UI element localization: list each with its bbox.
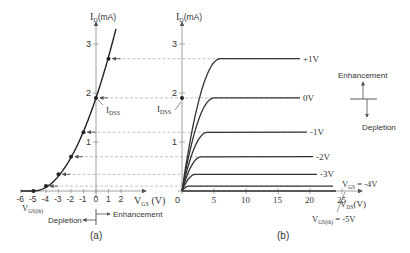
vgs-minus4-label: VGS = -4V [342, 179, 378, 190]
transfer-data-point [82, 130, 86, 134]
transfer-data-point [32, 189, 36, 193]
output-curve [182, 174, 317, 191]
left-x-label: VGS (V) [134, 195, 165, 207]
left-x-tick-label: -3 [54, 194, 62, 204]
left-x-tick-label: 0 [94, 194, 99, 204]
output-curve-label: +1V [303, 54, 320, 64]
right-x-label: VDS(V) [340, 199, 366, 210]
enhancement-label-right: Enhancement [338, 71, 388, 80]
vgs-th-label-right: VGS(th) = -5V [312, 214, 356, 226]
right-y-tick-label: 3 [172, 39, 177, 49]
output-curve-label: -3V [320, 169, 334, 179]
output-curve [182, 59, 300, 191]
right-x-tick-label: 20 [305, 195, 315, 205]
output-curve-label: -2V [316, 152, 330, 162]
right-y-tick-label: 2 [172, 88, 177, 98]
idss-pointer-left [98, 100, 103, 105]
right-x-tick-label: 5 [212, 195, 217, 205]
output-characteristic-plot: 0510152025 123 +1V0V-1V-2V-3V ID(mA) VDS… [157, 11, 396, 241]
transfer-data-point [94, 96, 98, 100]
idss-pointer-right [175, 102, 181, 110]
output-curve [182, 98, 300, 191]
jfet-characteristics-diagram: -6-5-4-3-2-1012 123 ID(mA) VGS (V) IDSS … [0, 0, 410, 253]
left-x-tick-label: -2 [67, 194, 75, 204]
left-y-tick-label: 2 [86, 88, 91, 98]
output-curve [182, 132, 307, 191]
output-curve-label: -1V [310, 127, 324, 137]
caption-a: (a) [90, 230, 102, 241]
left-y-tick-label: 3 [86, 39, 91, 49]
idss-point-right [180, 96, 184, 100]
transfer-data-point [57, 172, 61, 176]
depletion-label-right: Depletion [362, 123, 396, 132]
left-y-tick-label: 1 [86, 137, 91, 147]
transfer-characteristic-plot: -6-5-4-3-2-1012 123 ID(mA) VGS (V) IDSS … [17, 11, 166, 241]
idss-label-right: IDSS [157, 104, 171, 115]
left-y-label: ID(mA) [90, 11, 116, 23]
right-y-tick-label: 1 [172, 137, 177, 147]
caption-b: (b) [277, 230, 289, 241]
transfer-data-point [107, 57, 111, 61]
left-x-tick-label: -4 [42, 194, 50, 204]
transfer-data-point [69, 155, 73, 159]
left-x-tick-label: -1 [79, 194, 87, 204]
depletion-label-left: Depletion [48, 216, 82, 225]
right-y-label: ID(mA) [176, 11, 202, 23]
right-x-tick-label: 0 [175, 195, 180, 205]
left-x-tick-label: 1 [106, 194, 111, 204]
right-x-tick-label: 15 [273, 195, 283, 205]
idss-label-left: IDSS [106, 105, 120, 116]
left-x-tick-label: -5 [29, 194, 37, 204]
left-x-tick-label: 2 [119, 194, 124, 204]
enhancement-label-left: Enhancement [113, 210, 163, 219]
output-curve-label: 0V [303, 93, 315, 103]
transfer-data-point [44, 184, 48, 188]
vgs-th-label-left: VGS(th) [22, 203, 43, 215]
transfer-curve [21, 29, 116, 191]
right-x-tick-label: 10 [241, 195, 251, 205]
